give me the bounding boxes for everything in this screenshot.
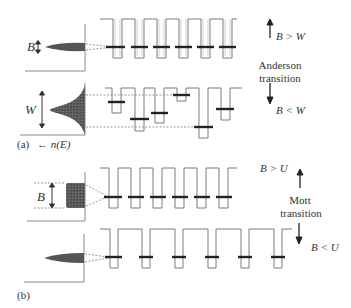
transition-label-line1: Anderson (250, 60, 310, 71)
transition-label-line1: Mott (278, 195, 322, 206)
periodic-potential (100, 168, 237, 208)
narrow-band-shape (45, 43, 85, 51)
double-arrow-icon (50, 183, 55, 208)
double-arrow-icon (36, 41, 41, 54)
projection-line (86, 197, 107, 206)
disorder-width-label: W (25, 103, 36, 116)
panel-a-lower (20, 83, 273, 138)
panel-b-upper (27, 168, 303, 221)
narrow-band-shape (44, 253, 84, 263)
double-arrow-icon (40, 91, 45, 128)
panel-caption-b: (b) (17, 290, 30, 301)
transition-label-line2: transition (271, 208, 331, 219)
arrow-down-icon (296, 223, 302, 244)
panel-caption-a: (a) (17, 139, 29, 150)
bandwidth-label-b: B (27, 40, 35, 53)
diagram-canvas (0, 0, 351, 308)
projection-line (85, 254, 108, 257)
bandwidth-label-b: B (37, 190, 45, 203)
relation-label: B > W (276, 31, 305, 42)
broad-band-shape (50, 85, 85, 135)
axis-label-dos: ← n(E) (37, 139, 70, 150)
energy-levels (108, 95, 234, 127)
transition-label-line2: transition (250, 73, 310, 84)
panel-a-upper (25, 19, 273, 71)
relation-label: B > U (260, 163, 288, 174)
arrow-down-icon (267, 83, 273, 104)
arrow-up-icon (297, 169, 303, 188)
relation-label: B < W (276, 105, 305, 116)
periodic-potential (100, 229, 292, 268)
projection-line (86, 185, 107, 196)
arrow-up-icon (267, 19, 273, 38)
projection-line (85, 258, 108, 262)
periodic-potential (100, 19, 237, 58)
panel-b-lower (24, 223, 302, 282)
relation-label: B < U (311, 242, 339, 253)
rect-band-shape (66, 183, 85, 208)
